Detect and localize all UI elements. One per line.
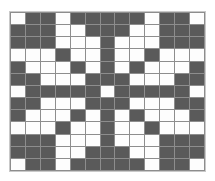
grid-cell <box>130 122 144 133</box>
grid-cell <box>11 74 25 85</box>
grid-cell <box>115 49 129 60</box>
grid-cell <box>26 122 40 133</box>
grid-cell <box>190 98 204 109</box>
grid-cell <box>86 98 100 109</box>
grid-cell <box>26 135 40 146</box>
grid-cell <box>71 159 85 170</box>
grid-cell <box>130 25 144 36</box>
grid-cell <box>160 122 174 133</box>
grid-cell <box>190 122 204 133</box>
grid-cell <box>115 62 129 73</box>
grid-cell <box>86 25 100 36</box>
grid-cell <box>175 122 189 133</box>
grid-cell <box>130 135 144 146</box>
grid-cell <box>71 135 85 146</box>
grid-cell <box>130 37 144 48</box>
grid-cell <box>56 147 70 158</box>
grid-cell <box>41 147 55 158</box>
grid-cell <box>175 49 189 60</box>
grid-cell <box>71 25 85 36</box>
pattern-canvas <box>0 0 215 181</box>
grid-cell <box>26 98 40 109</box>
grid-cell <box>26 110 40 121</box>
grid-cell <box>190 110 204 121</box>
grid-cell <box>190 62 204 73</box>
grid-cell <box>160 135 174 146</box>
grid-cell <box>41 49 55 60</box>
grid-cell <box>190 86 204 97</box>
grid-cell <box>145 86 159 97</box>
grid-cell <box>160 25 174 36</box>
grid-cell <box>26 25 40 36</box>
grid-cell <box>41 25 55 36</box>
grid-cell <box>26 159 40 170</box>
grid-cell <box>160 74 174 85</box>
grid-cell <box>175 147 189 158</box>
grid-cell <box>101 74 115 85</box>
grid-cell <box>11 62 25 73</box>
grid-cell <box>145 25 159 36</box>
grid-cell <box>190 37 204 48</box>
grid-cell <box>56 13 70 24</box>
grid-cell <box>175 13 189 24</box>
grid-cell <box>26 13 40 24</box>
grid-cell <box>175 86 189 97</box>
grid-cell <box>160 110 174 121</box>
grid-cell <box>11 25 25 36</box>
grid-cell <box>115 147 129 158</box>
grid-cell <box>86 13 100 24</box>
grid-cell <box>71 49 85 60</box>
grid-cell <box>101 49 115 60</box>
grid-cell <box>56 62 70 73</box>
grid-cell <box>41 37 55 48</box>
grid-cell <box>190 13 204 24</box>
grid-cell <box>115 37 129 48</box>
grid-cell <box>86 110 100 121</box>
grid-cell <box>56 135 70 146</box>
grid-cell <box>115 13 129 24</box>
grid-cell <box>160 98 174 109</box>
grid-cell <box>115 25 129 36</box>
grid-cell <box>101 25 115 36</box>
grid-cell <box>145 122 159 133</box>
grid-cell <box>145 62 159 73</box>
grid-cell <box>190 147 204 158</box>
grid-cell <box>160 13 174 24</box>
grid-cell <box>26 147 40 158</box>
grid-cell <box>41 13 55 24</box>
grid-cell <box>130 86 144 97</box>
grid-cell <box>56 98 70 109</box>
grid-cell <box>130 147 144 158</box>
grid-cell <box>71 122 85 133</box>
grid-cell <box>41 86 55 97</box>
grid-cell <box>145 74 159 85</box>
grid-cell <box>190 25 204 36</box>
grid-cell <box>11 122 25 133</box>
grid-cell <box>41 159 55 170</box>
grid-cell <box>11 159 25 170</box>
grid-cell <box>11 49 25 60</box>
grid-cell <box>101 37 115 48</box>
grid-cell <box>86 147 100 158</box>
grid-cell <box>101 159 115 170</box>
grid-cell <box>56 122 70 133</box>
grid-cell <box>145 49 159 60</box>
grid-cell <box>175 98 189 109</box>
grid-cell <box>101 13 115 24</box>
grid-cell <box>11 98 25 109</box>
grid-cell <box>175 159 189 170</box>
grid-cell <box>145 110 159 121</box>
grid-cell <box>56 49 70 60</box>
grid-cell <box>101 110 115 121</box>
pattern-grid-wrapper <box>10 12 205 171</box>
grid-cell <box>41 98 55 109</box>
grid-cell <box>11 135 25 146</box>
grid-cell <box>175 25 189 36</box>
grid-cell <box>115 110 129 121</box>
grid-cell <box>26 86 40 97</box>
grid-cell <box>71 74 85 85</box>
grid-cell <box>71 147 85 158</box>
grid-cell <box>115 74 129 85</box>
grid-cell <box>160 49 174 60</box>
grid-cell <box>101 98 115 109</box>
